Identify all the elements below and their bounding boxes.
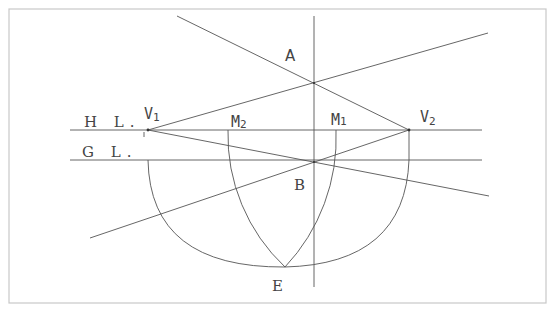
point-b-label: B xyxy=(294,176,305,194)
m1-label: M1 xyxy=(331,111,347,129)
v1-label: V1 xyxy=(144,105,160,124)
diagram-svg: H L. G L. V1 V2 M2 M1 A B E xyxy=(0,0,555,312)
line-b-v2 xyxy=(90,130,409,238)
m2-label: M2 xyxy=(231,113,247,131)
horizon-line-label: H L. xyxy=(84,113,141,131)
perspective-diagram: H L. G L. V1 V2 M2 M1 A B E xyxy=(0,0,555,312)
line-a-v2 xyxy=(177,16,409,130)
point-a-label: A xyxy=(285,47,296,65)
measure-arc-m1 xyxy=(285,130,336,267)
ground-line-label: G L. xyxy=(82,143,137,161)
line-v1-b xyxy=(148,130,489,196)
v2-label: V2 xyxy=(420,108,436,128)
v2-point xyxy=(408,129,411,132)
b-point xyxy=(313,161,315,163)
v1-point xyxy=(147,129,150,132)
point-e-label: E xyxy=(272,277,283,295)
station-arc xyxy=(148,160,409,267)
a-point xyxy=(313,82,315,84)
line-v1-a xyxy=(148,33,488,130)
